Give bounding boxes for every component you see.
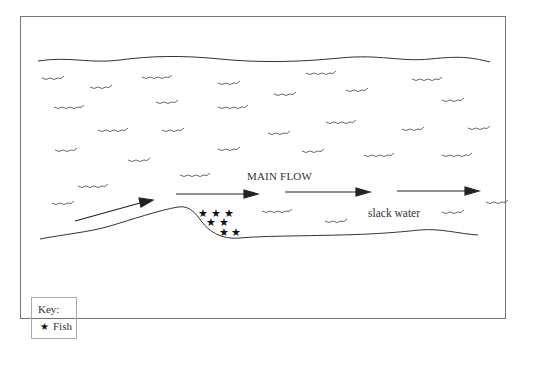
- legend-item-fish: ★Fish: [40, 320, 72, 332]
- svg-text:★: ★: [206, 216, 216, 229]
- star-icon: ★: [40, 321, 49, 332]
- cut-off-caption: [250, 364, 310, 369]
- top-riverbank: [38, 56, 490, 62]
- slack-water-label: slack water: [368, 207, 420, 219]
- water-ripples: [42, 71, 508, 223]
- svg-text:★: ★: [231, 226, 241, 239]
- legend-label: Fish: [53, 320, 72, 332]
- fish-markers: ★★★ ★★ ★★: [198, 207, 241, 239]
- main-flow-label: MAIN FLOW: [247, 170, 312, 182]
- svg-text:★: ★: [219, 226, 229, 239]
- legend-title: Key:: [38, 303, 59, 315]
- river-diagram: ★★★ ★★ ★★: [0, 0, 544, 369]
- legend-key: Key: ★Fish: [31, 297, 77, 339]
